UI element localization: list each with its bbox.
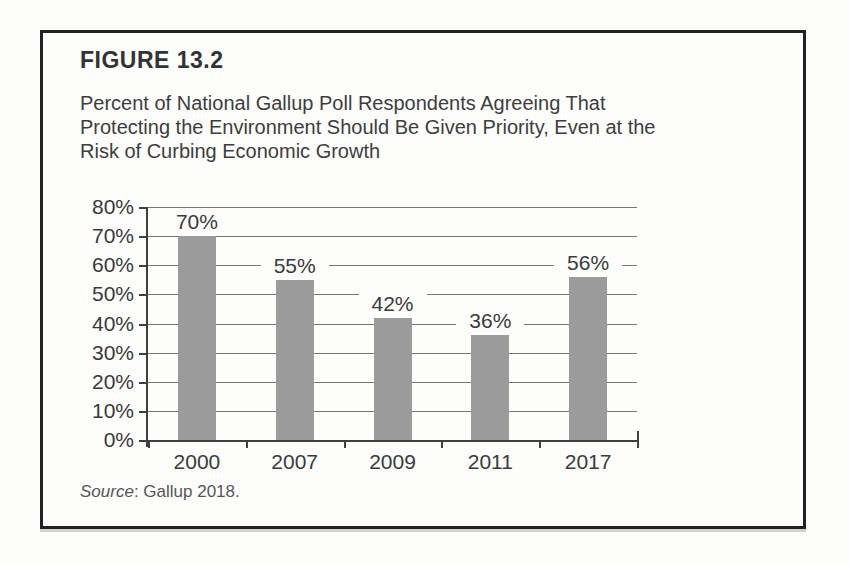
y-axis-label-30: 30% — [60, 341, 134, 365]
y-axis-label-80: 80% — [60, 195, 134, 219]
x-axis-tick-4 — [539, 440, 541, 448]
bar-2017 — [569, 277, 607, 440]
bar-value-label-2017: 56% — [554, 251, 622, 275]
bar-value-label-2011: 36% — [456, 309, 524, 333]
y-axis-label-50: 50% — [60, 282, 134, 306]
x-axis-label-2011: 2011 — [445, 450, 535, 474]
x-axis-end-cap — [637, 431, 639, 440]
bar-value-label-2000: 70% — [163, 210, 231, 234]
figure-box: FIGURE 13.2 Percent of National Gallup P… — [40, 30, 806, 529]
source-note: Source: Gallup 2018. — [80, 482, 240, 502]
x-axis-tick-2 — [344, 440, 346, 448]
y-axis-label-20: 20% — [60, 370, 134, 394]
gridline-80 — [148, 207, 637, 208]
source-word: Source — [80, 482, 134, 501]
y-axis-label-0: 0% — [60, 428, 134, 452]
bar-chart: 80%70%60%50%40%30%20%10%0%70%55%42%36%56… — [43, 33, 803, 526]
bar-value-label-2009: 42% — [359, 292, 427, 316]
x-axis-label-2009: 2009 — [348, 450, 438, 474]
x-axis-label-2000: 2000 — [152, 450, 242, 474]
bar-2007 — [276, 280, 314, 440]
bar-2011 — [471, 335, 509, 440]
x-axis-line — [146, 440, 637, 442]
bar-2009 — [374, 318, 412, 440]
x-axis-tick-1 — [246, 440, 248, 448]
y-axis-line — [146, 207, 148, 447]
bar-2000 — [178, 236, 216, 440]
x-axis-tick-3 — [441, 440, 443, 448]
x-axis-tick-5 — [637, 440, 639, 448]
gridline-70 — [148, 236, 637, 237]
source-text: : Gallup 2018. — [134, 482, 240, 501]
y-axis-label-60: 60% — [60, 253, 134, 277]
bar-value-label-2007: 55% — [261, 254, 329, 278]
x-axis-label-2007: 2007 — [250, 450, 340, 474]
y-axis-label-70: 70% — [60, 224, 134, 248]
x-axis-tick-0 — [148, 440, 150, 448]
y-axis-label-10: 10% — [60, 399, 134, 423]
y-axis-label-40: 40% — [60, 312, 134, 336]
x-axis-label-2017: 2017 — [543, 450, 633, 474]
scanned-page: FIGURE 13.2 Percent of National Gallup P… — [0, 0, 850, 564]
